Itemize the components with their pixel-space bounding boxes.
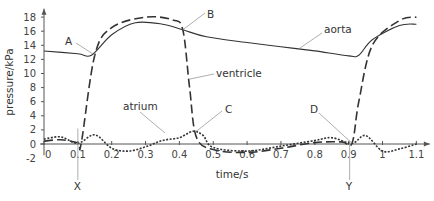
y-tick-label: 0 (30, 139, 36, 150)
annotations: ABCDXYaortaventricleatrium (65, 8, 353, 192)
label-atrium: atrium (123, 100, 158, 112)
y-tick-label: 16 (23, 26, 36, 37)
x-tick-label: 1.1 (408, 149, 424, 160)
y-tick-label: 14 (23, 40, 36, 51)
y-tick-label: 10 (23, 68, 36, 79)
annotation-y: Y (345, 180, 353, 192)
data-series (44, 17, 416, 153)
x-axis-arrow-icon (424, 142, 430, 147)
x-tick-label: 0.9 (341, 149, 357, 160)
annotation-d: D (310, 103, 318, 115)
x-axis-label: time/s (216, 168, 249, 180)
y-tick-label: 6 (30, 96, 36, 107)
axes (40, 9, 430, 156)
y-tick-label: 2 (30, 124, 36, 135)
tick-labels: -202468101214161800.10.20.30.40.50.60.70… (23, 12, 424, 164)
annotation-b: B (207, 8, 214, 20)
label-aorta: aorta (324, 23, 352, 35)
annotation-x: X (74, 180, 81, 192)
pressure-time-chart: -202468101214161800.10.20.30.40.50.60.70… (0, 0, 434, 201)
y-tick-label: 12 (23, 54, 36, 65)
y-tick-label: -2 (26, 153, 36, 164)
x-tick-label: 0.4 (171, 149, 187, 160)
series-ventricle (44, 17, 416, 153)
x-tick-label: 0.8 (307, 149, 323, 160)
x-tick-label: 0 (45, 149, 51, 160)
annotation-a: A (65, 35, 73, 47)
x-tick-label: 0.7 (273, 149, 289, 160)
label-ventricle: ventricle (216, 67, 262, 79)
x-tick-label: 0.3 (138, 149, 154, 160)
annotation-c: C (225, 103, 232, 115)
y-tick-label: 8 (30, 82, 36, 93)
y-axis-label: pressure/kPa (3, 48, 15, 115)
y-tick-label: 18 (23, 12, 36, 23)
series-atrium (44, 131, 416, 152)
x-tick-label: 0.5 (205, 149, 221, 160)
y-axis-arrow-icon (42, 9, 47, 15)
y-tick-label: 4 (30, 110, 36, 121)
series-aorta (44, 22, 416, 57)
